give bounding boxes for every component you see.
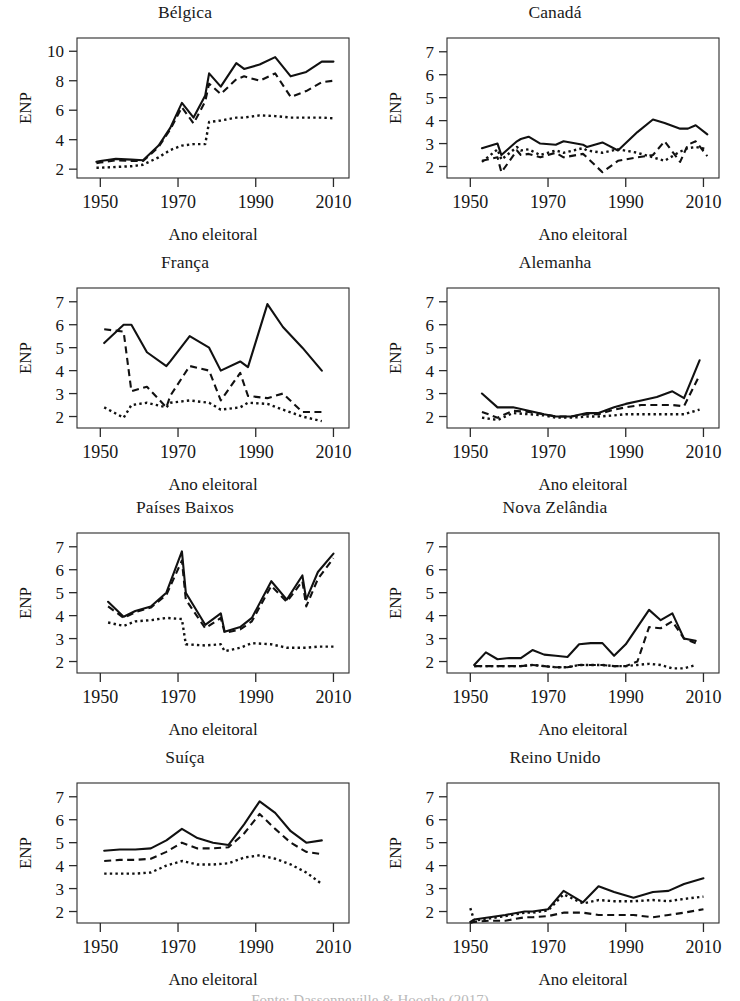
chart-panel: Suíça2345671950197019902010ENPAno eleito… bbox=[0, 745, 370, 1001]
series-line-solid bbox=[104, 304, 322, 371]
y-axis-label: ENP bbox=[386, 837, 405, 869]
y-tick-label: 4 bbox=[56, 131, 65, 150]
x-tick-label: 1990 bbox=[238, 687, 274, 707]
y-tick-label: 4 bbox=[426, 112, 435, 131]
series-line-dotted bbox=[474, 664, 695, 669]
y-tick-label: 5 bbox=[56, 834, 65, 853]
y-tick-label: 7 bbox=[426, 538, 435, 557]
x-tick-label: 1970 bbox=[160, 192, 196, 212]
x-tick-label: 2010 bbox=[685, 937, 721, 957]
panel-grid: Bélgica2468101950197019902010ENPAno elei… bbox=[0, 0, 740, 1001]
y-tick-label: 2 bbox=[56, 903, 65, 922]
y-tick-label: 8 bbox=[56, 72, 65, 91]
x-tick-label: 1950 bbox=[82, 687, 118, 707]
figure-root: Bélgica2468101950197019902010ENPAno elei… bbox=[0, 0, 740, 1001]
y-axis-label: ENP bbox=[16, 837, 35, 869]
x-tick-label: 1970 bbox=[160, 442, 196, 462]
series-line-dashed bbox=[104, 329, 322, 412]
y-tick-label: 3 bbox=[56, 385, 65, 404]
series-line-dotted bbox=[104, 855, 322, 884]
y-tick-label: 7 bbox=[426, 293, 435, 312]
x-tick-label: 1950 bbox=[452, 442, 488, 462]
series-line-solid bbox=[482, 360, 700, 416]
y-tick-label: 5 bbox=[56, 339, 65, 358]
x-tick-label: 2010 bbox=[315, 687, 351, 707]
y-tick-label: 5 bbox=[426, 89, 435, 108]
series-line-dashed bbox=[482, 141, 707, 172]
x-tick-label: 1950 bbox=[452, 192, 488, 212]
x-tick-label: 1990 bbox=[238, 192, 274, 212]
y-tick-label: 4 bbox=[56, 362, 65, 381]
y-tick-label: 6 bbox=[426, 561, 435, 580]
x-tick-label: 1970 bbox=[530, 442, 566, 462]
x-tick-label: 1950 bbox=[82, 442, 118, 462]
y-tick-label: 3 bbox=[426, 135, 435, 154]
y-tick-label: 6 bbox=[56, 316, 65, 335]
chart-panel: Reino Unido2345671950197019902010ENPAno … bbox=[370, 745, 740, 1001]
bottom-caption-fragment: Fonte: Dassonneville & Hooghe (2017) bbox=[0, 987, 740, 1001]
y-tick-label: 2 bbox=[426, 903, 435, 922]
x-tick-label: 1990 bbox=[608, 937, 644, 957]
series-line-solid bbox=[96, 57, 333, 162]
x-axis-label: Ano eleitoral bbox=[168, 720, 257, 739]
y-tick-label: 6 bbox=[56, 811, 65, 830]
y-tick-label: 2 bbox=[426, 408, 435, 427]
y-tick-label: 3 bbox=[426, 385, 435, 404]
y-tick-label: 6 bbox=[426, 66, 435, 85]
panel-plot: 2345671950197019902010ENPAno eleitoral bbox=[0, 745, 370, 1001]
panel-plot: 2345671950197019902010ENPAno eleitoral bbox=[0, 250, 370, 495]
panel-plot: 2345671950197019902010ENPAno eleitoral bbox=[370, 745, 740, 1001]
x-axis-label: Ano eleitoral bbox=[538, 475, 627, 494]
x-axis-label: Ano eleitoral bbox=[168, 225, 257, 244]
chart-panel: Países Baixos2345671950197019902010ENPAn… bbox=[0, 495, 370, 745]
x-tick-label: 1950 bbox=[452, 687, 488, 707]
y-axis-label: ENP bbox=[16, 92, 35, 124]
y-tick-label: 5 bbox=[426, 584, 435, 603]
panel-plot: 2345671950197019902010ENPAno eleitoral bbox=[370, 250, 740, 495]
x-tick-label: 1970 bbox=[530, 687, 566, 707]
y-tick-label: 3 bbox=[56, 880, 65, 899]
x-tick-label: 1950 bbox=[82, 192, 118, 212]
x-tick-label: 1990 bbox=[608, 192, 644, 212]
series-line-dashed bbox=[470, 909, 703, 923]
x-tick-label: 1990 bbox=[608, 687, 644, 707]
x-tick-label: 2010 bbox=[685, 687, 721, 707]
y-tick-label: 7 bbox=[56, 788, 65, 807]
x-tick-label: 1950 bbox=[82, 937, 118, 957]
x-tick-label: 1970 bbox=[530, 192, 566, 212]
x-tick-label: 2010 bbox=[315, 442, 351, 462]
y-tick-label: 2 bbox=[426, 158, 435, 177]
chart-panel: Nova Zelândia2345671950197019902010ENPAn… bbox=[370, 495, 740, 745]
chart-panel: França2345671950197019902010ENPAno eleit… bbox=[0, 250, 370, 495]
y-tick-label: 2 bbox=[56, 408, 65, 427]
y-tick-label: 6 bbox=[426, 811, 435, 830]
x-tick-label: 1990 bbox=[238, 442, 274, 462]
x-tick-label: 1970 bbox=[530, 937, 566, 957]
x-axis-label: Ano eleitoral bbox=[538, 225, 627, 244]
plot-frame bbox=[77, 288, 349, 428]
series-line-solid bbox=[482, 119, 707, 155]
y-tick-label: 4 bbox=[56, 857, 65, 876]
chart-panel: Alemanha2345671950197019902010ENPAno ele… bbox=[370, 250, 740, 495]
series-line-solid bbox=[474, 610, 695, 665]
x-tick-label: 2010 bbox=[315, 937, 351, 957]
panel-plot: 2345671950197019902010ENPAno eleitoral bbox=[370, 495, 740, 745]
y-tick-label: 7 bbox=[56, 293, 65, 312]
y-tick-label: 3 bbox=[426, 880, 435, 899]
y-tick-label: 3 bbox=[426, 630, 435, 649]
x-axis-label: Ano eleitoral bbox=[168, 475, 257, 494]
y-tick-label: 6 bbox=[56, 561, 65, 580]
y-tick-label: 3 bbox=[56, 630, 65, 649]
y-axis-label: ENP bbox=[16, 342, 35, 374]
y-tick-label: 7 bbox=[426, 788, 435, 807]
y-axis-label: ENP bbox=[386, 587, 405, 619]
y-tick-label: 5 bbox=[426, 339, 435, 358]
plot-frame bbox=[77, 783, 349, 923]
x-tick-label: 2010 bbox=[685, 442, 721, 462]
panel-plot: 2345671950197019902010ENPAno eleitoral bbox=[370, 0, 740, 250]
series-line-solid bbox=[104, 801, 322, 850]
panel-plot: 2345671950197019902010ENPAno eleitoral bbox=[0, 495, 370, 745]
y-tick-label: 4 bbox=[56, 607, 65, 626]
y-tick-label: 4 bbox=[426, 857, 435, 876]
y-axis-label: ENP bbox=[386, 92, 405, 124]
